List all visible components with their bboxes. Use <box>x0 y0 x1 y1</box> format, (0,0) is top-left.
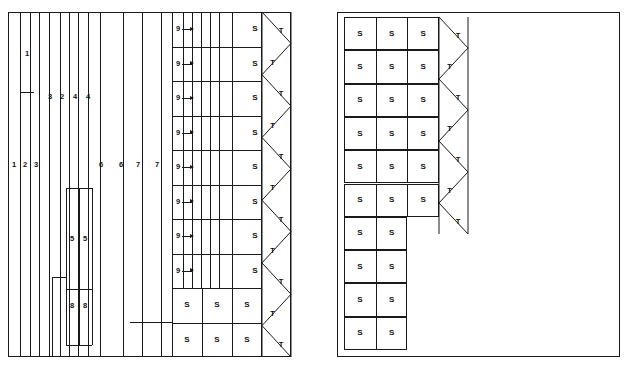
strip-divider-5 <box>60 12 61 357</box>
right-grid-divider-2-1 <box>376 84 377 117</box>
strip-divider-9 <box>100 12 101 357</box>
grid-bottom-cell-8-1: S <box>214 301 219 309</box>
right-grid-cell-2-1: S <box>389 96 394 104</box>
right-grid-cell-9-1: S <box>389 329 394 337</box>
grid-row-divider-4 <box>172 150 262 151</box>
triangle-label-3: T <box>447 125 452 133</box>
sub-column-0 <box>66 188 67 345</box>
right-grid-cell-8-1: S <box>389 296 394 304</box>
grid-bottom-cell-9-1: S <box>214 336 219 344</box>
grid-arrow-4 <box>182 167 193 168</box>
grid-row-divider-7 <box>172 254 262 255</box>
grid-arrow-3 <box>182 133 193 134</box>
left-zigzag-band <box>262 12 291 357</box>
right-grid-cell-4-2: S <box>421 163 426 171</box>
strip-divider-1 <box>20 12 21 357</box>
grid-arrow-row-cell-2: S <box>252 94 257 102</box>
right-grid-divider-1-1 <box>376 50 377 83</box>
right-grid-divider-9-1 <box>376 317 377 350</box>
mid-strip-label-0: 1 <box>12 161 16 169</box>
grid-arrow-6 <box>182 236 193 237</box>
grid-inner-divider-1 <box>192 12 193 288</box>
strip-divider-8 <box>88 12 89 357</box>
right-grid-cell-1-2: S <box>421 63 426 71</box>
short-rule-5 <box>130 322 172 323</box>
lower-strip-label-1: 5 <box>83 235 87 243</box>
triangle-label-5: T <box>270 185 275 193</box>
mid-strip-label-1: 2 <box>23 161 27 169</box>
grid-bottom-cell-9-2: S <box>244 336 249 344</box>
right-grid-divider-7-1 <box>376 250 377 283</box>
zigzag-diagonal-3 <box>439 110 468 141</box>
right-grid-cell-0-1: S <box>389 30 394 38</box>
lower-strip-label-3: 8 <box>83 302 87 310</box>
triangle-label-4: T <box>456 156 461 164</box>
mid-strip-label-3: 6 <box>99 161 103 169</box>
right-grid-divider-5-1 <box>376 184 377 217</box>
grid-row-divider-6 <box>172 219 262 220</box>
grid-inner-divider-5 <box>232 12 233 288</box>
right-grid-cell-3-2: S <box>421 130 426 138</box>
grid-arrow-2 <box>182 98 193 99</box>
grid-inner-divider-0 <box>183 12 184 288</box>
right-grid-cell-2-2: S <box>421 96 426 104</box>
diagram-canvas: 13244123667755889S9S9S9S9S9S9S9SSSSSSSTT… <box>0 0 628 371</box>
strip-divider-2 <box>30 12 31 357</box>
grid-bottom-cell-8-0: S <box>184 301 189 309</box>
grid-row-divider-5 <box>172 185 262 186</box>
triangle-label-2: T <box>456 94 461 102</box>
upper-strip-label-0: 1 <box>25 50 29 58</box>
zigzag-diagonal-4 <box>439 141 468 172</box>
right-grid-cell-4-1: S <box>389 163 394 171</box>
grid-arrow-row-cell-1: S <box>252 60 257 68</box>
triangle-label-6: T <box>279 216 284 224</box>
grid-arrow-1 <box>182 64 193 65</box>
strip-divider-3 <box>39 12 40 357</box>
grid-arrow-5 <box>182 202 193 203</box>
zigzag-diagonal-8 <box>262 263 291 294</box>
grid-bottom-divider-8-1 <box>202 288 203 323</box>
grid-arrow-row-cell-4: S <box>252 163 257 171</box>
sub-column-2 <box>92 188 93 345</box>
right-grid-cell-2-0: S <box>357 96 362 104</box>
triangle-label-2: T <box>279 90 284 98</box>
right-grid-cell-6-1: S <box>389 229 394 237</box>
triangle-label-8: T <box>279 279 284 287</box>
grid-row-divider-8 <box>172 288 262 289</box>
grid-arrow-row-label-4: 9 <box>176 164 180 172</box>
short-rule-0 <box>20 92 34 93</box>
grid-arrow-row-cell-5: S <box>252 198 257 206</box>
zigzag-diagonal-0 <box>262 12 291 43</box>
zigzag-diagonal-5 <box>439 172 468 203</box>
triangle-label-0: T <box>279 28 284 36</box>
grid-arrow-row-label-2: 9 <box>176 95 180 103</box>
triangle-label-0: T <box>456 32 461 40</box>
triangle-label-7: T <box>270 247 275 255</box>
right-grid-divider-4-2 <box>407 150 408 183</box>
zigzag-diagonal-4 <box>262 137 291 168</box>
zigzag-diagonal-6 <box>439 203 468 234</box>
zigzag-diagonal-7 <box>262 232 291 263</box>
grid-arrow-row-label-1: 9 <box>176 60 180 68</box>
lower-strip-label-0: 5 <box>70 235 74 243</box>
strip-divider-11 <box>142 12 143 357</box>
grid-row-divider-2 <box>172 81 262 82</box>
right-grid-cell-7-0: S <box>357 263 362 271</box>
right-grid-cell-6-0: S <box>357 229 362 237</box>
grid-arrow-row-label-6: 9 <box>176 233 180 241</box>
right-grid-cell-5-1: S <box>389 196 394 204</box>
right-grid-divider-1-2 <box>407 50 408 83</box>
right-grid-cell-5-2: S <box>421 196 426 204</box>
right-grid-cell-3-0: S <box>357 130 362 138</box>
grid-arrow-row-cell-0: S <box>252 25 257 33</box>
triangle-label-10: T <box>279 341 284 349</box>
upper-strip-label-1: 3 <box>48 93 52 101</box>
short-rule-4 <box>66 345 92 346</box>
zigzag-diagonal-9 <box>262 294 291 325</box>
zigzag-diagonal-1 <box>262 43 291 74</box>
zigzag-diagonal-5 <box>262 169 291 200</box>
right-grid-divider-2-2 <box>407 84 408 117</box>
grid-row-divider-1 <box>172 47 262 48</box>
zigzag-diagonal-10 <box>262 326 291 357</box>
zigzag-diagonal-6 <box>262 200 291 231</box>
